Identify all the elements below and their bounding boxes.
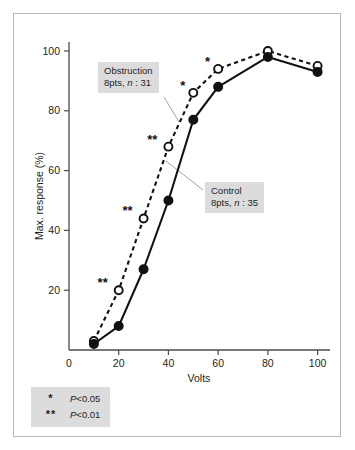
significance-marker: * [180,78,186,93]
callout-obstruction-detail: 8pts, n : 31 [104,77,153,89]
y-tick-label: 20 [48,284,60,296]
chart-canvas: 20406080100 020406080100 Volts Max. resp… [0,0,355,450]
data-point-obstruction [214,65,222,73]
significance-legend-value: P<0.05 [64,391,100,407]
data-point-control [164,196,173,205]
callout-obstruction-detail-prefix: 8pts, [104,77,127,88]
y-tick-label: 80 [48,104,60,116]
data-point-obstruction [189,89,197,97]
data-point-control [313,68,322,77]
y-tick-group: 20406080100 [42,45,69,296]
callout-obstruction-title: Obstruction [104,65,153,77]
callout-control: Control 8pts, n : 35 [205,182,264,213]
x-tick-label: 20 [113,357,125,369]
x-tick-label: 0 [66,357,72,369]
x-tick-label: 80 [262,357,274,369]
data-point-obstruction [115,286,123,294]
significance-legend-row: **P<0.01 [38,407,100,423]
callout-obstruction-detail-suffix: : 31 [133,77,152,88]
significance-marker: ** [122,203,133,218]
data-point-obstruction [164,143,172,151]
leader-line-obstruction [164,97,179,122]
data-point-control [264,53,273,62]
significance-marker: ** [98,275,109,290]
data-point-control [114,322,123,331]
x-tick-label: 40 [163,357,175,369]
significance-marker: * [205,54,211,69]
significance-legend-symbol: * [38,391,64,407]
callout-control-detail: 8pts, n : 35 [211,197,258,209]
significance-legend-p: P [70,393,76,404]
callout-control-detail-suffix: : 35 [240,197,259,208]
data-point-control [214,83,223,92]
significance-legend-p: P [70,409,76,420]
x-axis-title: Volts [188,372,211,384]
leader-line-control [166,161,203,190]
data-point-control [139,265,148,274]
callout-control-detail-prefix: 8pts, [211,197,234,208]
significance-legend-value: P<0.01 [64,407,100,423]
data-point-control [90,340,99,349]
data-point-control [189,115,198,124]
callout-obstruction: Obstruction 8pts, n : 31 [98,62,159,93]
figure-root: 20406080100 020406080100 Volts Max. resp… [0,0,355,450]
callout-control-title: Control [211,185,258,197]
significance-legend-row: *P<0.05 [38,391,100,407]
significance-legend-table: *P<0.05**P<0.01 [38,391,100,422]
data-point-obstruction [140,214,148,222]
x-tick-label: 100 [309,357,327,369]
x-tick-label: 60 [212,357,224,369]
significance-legend-symbol: ** [38,407,64,423]
significance-marker: ** [147,132,158,147]
significance-legend-body: *P<0.05**P<0.01 [38,391,100,422]
y-axis-title: Max. response (%) [33,152,45,240]
x-tick-group: 020406080100 [66,350,326,369]
significance-legend: *P<0.05**P<0.01 [31,387,110,427]
y-tick-label: 100 [42,45,60,57]
y-tick-label: 40 [48,224,60,236]
y-tick-label: 60 [48,164,60,176]
